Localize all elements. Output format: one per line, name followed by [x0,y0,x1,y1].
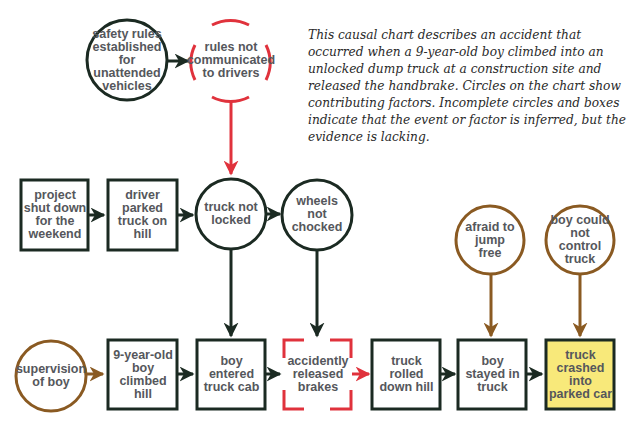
label-boy-stayed: boy stayed in truck [460,342,525,407]
label-released-brakes: accidently released brakes [286,342,350,407]
label-boy-entered-cab: boy entered truck cab [199,342,264,407]
label-safety-rules: safety rules established for unattended … [89,24,165,96]
label-supervision: supervision of boy [18,354,84,398]
label-project-shut-down: project shut down for the weekend [22,182,88,248]
label-boy-climbed-hill: 9-year-old boy climbed hill [110,342,176,407]
label-truck-rolled: truck rolled down hill [374,342,439,407]
label-wheels-not-chocked: wheels not chocked [285,188,349,240]
label-truck-not-locked: truck not locked [202,188,260,240]
label-driver-parked: driver parked truck on hill [109,182,176,248]
label-afraid-to-jump: afraid to jump free [462,216,518,264]
label-rules-not-communicated: rules not communicated to drivers [193,24,269,96]
label-boy-could-not-control: boy could not control truck [549,214,611,266]
chart-caption: This causal chart describes an accident … [308,27,628,146]
label-truck-crashed: truck crashed into parked car [548,342,613,407]
